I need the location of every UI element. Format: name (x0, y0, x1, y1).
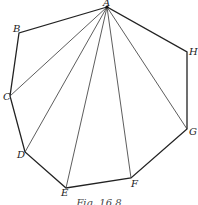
label-F: F (131, 179, 138, 189)
diagonal-AD (25, 7, 107, 152)
label-B: B (13, 24, 20, 34)
diagonal-AG (107, 7, 187, 129)
label-C: C (3, 92, 11, 102)
diagonal-AE (66, 7, 107, 188)
diagonal-AF (107, 7, 131, 178)
octagon-diagram: A B C D E F G H Fig. 16.8 (0, 0, 198, 205)
label-G: G (189, 127, 197, 137)
label-A: A (103, 0, 110, 8)
label-D: D (17, 150, 25, 160)
diagonal-AC (10, 7, 107, 96)
octagon-outline (10, 7, 187, 188)
figure-caption: Fig. 16.8 (0, 197, 198, 205)
label-H: H (189, 47, 198, 57)
diagram-canvas (0, 0, 198, 205)
